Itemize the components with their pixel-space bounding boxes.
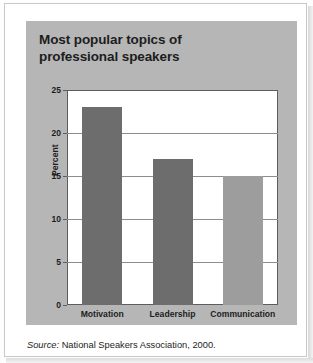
y-axis-tick-label: 15 [52,171,61,181]
bar-leadership [153,159,193,305]
x-axis-label-communication: Communication [210,309,275,319]
source-text: National Speakers Association, 2000. [62,340,216,350]
chart-title-line-1: Most popular topics of [39,32,182,47]
y-axis-tick-mark [63,176,67,177]
y-axis-tick-mark [63,90,67,91]
bar-communication [223,176,263,305]
figure-root: Most popular topics of professional spea… [0,0,313,363]
y-axis-tick-label: 10 [52,214,61,224]
x-axis-label-leadership: Leadership [150,309,196,319]
y-axis-tick-mark [63,219,67,220]
y-axis-tick-mark [63,133,67,134]
chart-title-line-2: professional speakers [39,49,179,64]
bar-motivation [82,107,122,305]
chart-panel: Most popular topics of professional spea… [26,21,297,325]
plot-wrap: 0510152025 MotivationLeadershipCommunica… [67,90,278,305]
page-edge-shadow-right [308,6,313,363]
y-axis-tick-mark [63,262,67,263]
chart-title: Most popular topics of professional spea… [39,32,279,65]
y-axis-tick-label: 20 [52,128,61,138]
source-caption: Source: National Speakers Association, 2… [27,340,216,350]
y-axis-tick-label: 25 [52,85,61,95]
y-axis-tick-label: 0 [56,300,61,310]
source-prefix: Source: [27,340,59,350]
figure-border: Most popular topics of professional spea… [4,3,307,357]
y-axis-tick-label: 5 [56,257,61,267]
x-axis-label-motivation: Motivation [81,309,124,319]
y-axis-tick-mark [63,305,67,306]
page-edge-shadow-bottom [6,358,313,363]
